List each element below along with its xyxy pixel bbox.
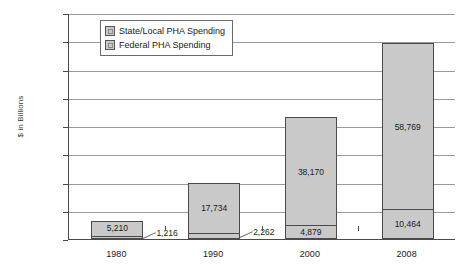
x-axis-tick-mark [358,226,359,231]
bar-segment-state-local[interactable]: 4,879 [285,225,337,239]
bar-value-label: 5,210 [107,224,128,233]
bar-value-label: 17,734 [201,204,227,213]
bar-value-label: 38,170 [298,168,324,177]
callout-label: 1,216 [156,228,177,238]
bar-value-label: 10,464 [395,220,421,229]
x-axis-tick-mark [165,226,166,231]
bar-segment-state-local[interactable]: 10,464 [382,209,434,239]
legend-label: State/Local PHA Spending [119,26,225,36]
x-axis-tick-label: 1990 [173,249,253,259]
legend-item-federal: Federal PHA Spending [105,38,225,52]
bar-group: 58,76910,464 [359,14,456,239]
x-axis-tick-label: 2008 [367,249,447,259]
y-axis-tick-mark [63,240,68,241]
stacked-bar-chart: $ in Billions 80,00070,00060,00050,00040… [0,0,469,273]
bar-stack[interactable]: 38,1704,879 [285,117,337,239]
chart-legend: State/Local PHA Spending Federal PHA Spe… [100,20,233,56]
bar-stack[interactable]: 5,2101,216 [91,221,143,239]
bar-segment-federal[interactable]: 5,210 [91,221,143,236]
legend-item-state-local: State/Local PHA Spending [105,24,225,38]
bar-value-label: 58,769 [395,123,421,132]
bar-segment-federal[interactable]: 58,769 [382,43,434,209]
bar-segment-federal[interactable]: 38,170 [285,117,337,225]
bar-segment-state-local[interactable]: 1,216 [91,236,143,239]
x-axis-tick-mark [262,226,263,231]
bar-stack[interactable]: 58,76910,464 [382,43,434,239]
legend-swatch-icon [105,26,115,36]
bar-stack[interactable]: 17,7342,262 [188,183,240,239]
legend-label: Federal PHA Spending [119,40,211,50]
bar-segment-state-local[interactable]: 2,262 [188,233,240,239]
bar-value-label: 4,879 [300,228,321,237]
callout-label: 2,262 [253,227,274,237]
legend-swatch-icon [105,40,115,50]
plot-area: 5,2101,21617,7342,26238,1704,87958,76910… [68,14,455,240]
y-axis-title: $ in Billions [16,37,25,197]
x-axis-tick-label: 1980 [76,249,156,259]
bar-segment-federal[interactable]: 17,734 [188,183,240,233]
bar-group: 38,1704,879 [263,14,360,239]
x-axis-tick-label: 2000 [270,249,350,259]
